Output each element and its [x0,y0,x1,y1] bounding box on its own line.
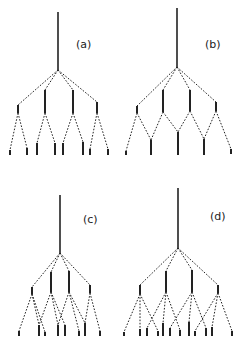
dashed-edge [69,292,79,331]
dashed-edge [151,112,163,140]
dashed-edge [63,113,73,143]
dashed-edge [85,293,90,323]
dashed-edge [45,113,55,143]
dashed-edge [60,253,69,271]
dashed-edge [37,113,45,143]
dashed-edge [218,293,232,331]
dashed-edge [166,292,180,330]
dashed-edge [60,253,90,285]
dashed-edge [189,292,192,322]
dashed-edge [73,113,83,142]
dashed-edge [90,293,100,331]
dashed-edge [58,70,97,102]
dashed-edge [178,111,190,132]
dashed-edge [163,112,178,132]
panel-a-tree [10,12,108,155]
dashed-edge [147,292,166,328]
dashed-edge [51,253,60,272]
dashed-edge [204,111,216,139]
dashed-edge [19,294,32,331]
dashed-edge [45,70,58,90]
dashed-edge [124,294,140,332]
panel-a-label: (a) [76,38,91,51]
dashed-edge [97,113,108,149]
dashed-edge [51,292,65,325]
dashed-edge [90,113,97,149]
dashed-edge [190,111,204,139]
dashed-edge [178,248,218,285]
dashed-edge [126,113,137,151]
panel-c-label: (c) [83,213,98,226]
dashed-edge [140,248,178,285]
panel-b-label: (b) [205,38,221,51]
dashed-edge [216,111,231,149]
dashed-edge [58,292,69,325]
dashed-edge [39,292,51,325]
dashed-edge [18,113,27,148]
panel-b-tree [126,8,231,155]
dashed-edge [163,292,166,323]
dashed-edge [32,253,60,287]
dashed-edge [177,67,190,90]
panel-d-label: (d) [210,210,226,223]
dashed-edge [137,113,151,140]
dashed-edge [51,292,58,325]
dashed-edge [18,70,58,105]
dashed-edge [32,294,39,325]
dashed-edge [166,248,178,271]
dashed-edge [137,67,177,106]
dashed-edge [212,293,218,327]
dashed-edge [69,292,85,323]
dashed-edge [177,67,216,102]
dashed-edge [10,113,18,150]
tree-diagrams [0,0,250,348]
dashed-edge [192,292,206,328]
